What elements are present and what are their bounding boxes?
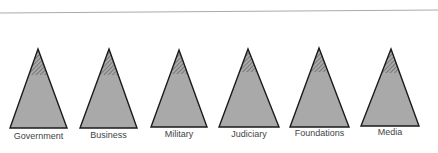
pyramid-label: Government	[0, 131, 79, 141]
pyramid-elite-hatch	[382, 49, 400, 73]
pyramid-label: Media	[350, 127, 430, 137]
pyramid-judiciary	[219, 49, 279, 127]
top-rule	[0, 10, 438, 13]
pyramid-label: Judiciary	[209, 129, 289, 139]
pyramid-military	[151, 50, 207, 127]
pyramid-elite-hatch	[99, 49, 118, 75]
pyramid-label: Military	[139, 129, 219, 139]
pyramid-label: Foundations	[280, 128, 360, 138]
pyramid-government	[10, 49, 67, 128]
pyramid-media	[361, 49, 419, 126]
pyramid-elite-hatch	[170, 50, 187, 74]
pyramid-label: Business	[69, 130, 149, 140]
pyramid-elite-hatch	[239, 49, 257, 72]
pyramid-elite-hatch	[310, 48, 328, 72]
pyramid-elite-hatch	[29, 49, 48, 75]
pyramid-business	[80, 49, 137, 128]
pyramid-foundations	[290, 48, 349, 127]
